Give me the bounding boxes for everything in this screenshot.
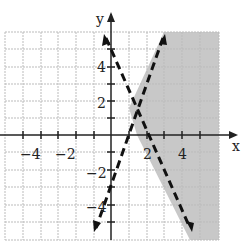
x-tick-label: −2 (55, 146, 76, 162)
inequality-graph: x y −4 −2 2 4 4 2 −2 −4 (0, 0, 247, 246)
x-tick-label: 2 (143, 146, 152, 162)
y-tick-label: 4 (97, 59, 106, 75)
shaded-region (129, 32, 219, 240)
y-tick-label: 2 (97, 95, 106, 111)
y-tick-label: −2 (86, 165, 107, 181)
x-tick-label: −4 (20, 146, 41, 162)
x-tick-label: 4 (178, 146, 187, 162)
y-axis-label: y (95, 11, 104, 27)
y-axis-arrow-icon (107, 12, 115, 22)
x-axis-label: x (232, 138, 240, 154)
y-tick-label: −4 (86, 199, 107, 215)
